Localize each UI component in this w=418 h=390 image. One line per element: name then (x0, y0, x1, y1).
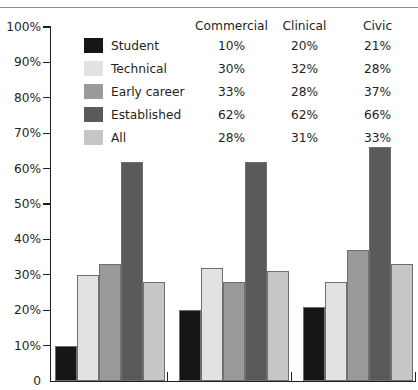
bar-student-clinical (179, 310, 201, 381)
y-axis-tick (43, 62, 51, 63)
bar-technical-clinical (201, 268, 223, 381)
bar-all-clinical (267, 271, 289, 381)
x-axis-group-separator-tick (291, 372, 292, 381)
y-axis-tick (43, 203, 51, 204)
y-axis-tick (43, 97, 51, 98)
bar-early-career-civic (347, 250, 369, 381)
y-axis-tick (43, 133, 51, 134)
bar-established-clinical (245, 162, 267, 381)
bar-all-civic (391, 264, 413, 381)
bar-all-commercial (143, 282, 165, 381)
y-axis-tick (43, 26, 51, 27)
y-axis-tick (43, 274, 51, 275)
bar-early-career-commercial (99, 264, 121, 381)
bar-established-commercial (121, 162, 143, 381)
bar-student-commercial (55, 346, 77, 381)
bar-early-career-clinical (223, 282, 245, 381)
plot-area (0, 0, 418, 390)
y-axis-tick (43, 310, 51, 311)
y-axis-tick (43, 345, 51, 346)
x-axis-end-tick (415, 372, 416, 381)
y-axis-tick (43, 239, 51, 240)
bar-technical-civic (325, 282, 347, 381)
y-axis-tick (43, 168, 51, 169)
bar-student-civic (303, 307, 325, 381)
x-axis-group-separator-tick (167, 372, 168, 381)
bar-established-civic (369, 147, 391, 381)
bar-technical-commercial (77, 275, 99, 381)
bar-chart-figure: 010%20%30%40%50%60%70%80%90%100% Commerc… (0, 0, 418, 390)
